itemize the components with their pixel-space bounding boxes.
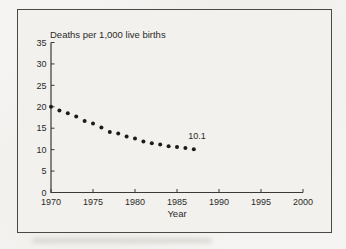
data-point: [57, 109, 61, 113]
y-tick-label: 30: [36, 59, 46, 69]
y-axis-ticks: 05101520253035: [36, 38, 54, 198]
x-tick-label: 1975: [83, 197, 103, 207]
x-axis-ticks: 1970197519801985199019952000: [41, 189, 313, 207]
data-point: [83, 119, 87, 123]
x-axis-label: Year: [167, 208, 186, 219]
y-tick-label: 25: [36, 81, 46, 91]
y-tick-label: 35: [36, 38, 46, 48]
data-point: [49, 105, 53, 109]
data-point: [150, 141, 154, 145]
x-tick-label: 1985: [167, 197, 187, 207]
data-point: [175, 145, 179, 149]
data-point: [116, 131, 120, 135]
data-point: [91, 122, 95, 126]
x-tick-label: 1990: [209, 197, 229, 207]
data-point: [141, 140, 145, 144]
scan-smudge-artifact: [32, 238, 212, 243]
data-point: [183, 146, 187, 150]
data-series: [49, 105, 196, 151]
data-point: [125, 134, 129, 138]
chart-title: Deaths per 1,000 live births: [50, 29, 166, 40]
y-tick-label: 10: [36, 145, 46, 155]
data-point: [99, 125, 103, 129]
y-tick-label: 5: [41, 166, 46, 176]
data-point: [108, 130, 112, 134]
x-tick-label: 1995: [251, 197, 271, 207]
data-point: [74, 115, 78, 119]
data-point: [66, 111, 70, 115]
last-point-annotation: 10.1: [188, 131, 206, 141]
data-point: [158, 143, 162, 147]
x-tick-label: 1980: [125, 197, 145, 207]
axes: [51, 43, 303, 193]
chart-canvas: Deaths per 1,000 live births 05101520253…: [0, 0, 346, 249]
y-tick-label: 15: [36, 123, 46, 133]
y-tick-label: 20: [36, 102, 46, 112]
data-point: [192, 147, 196, 151]
data-point: [167, 144, 171, 148]
axis-lines: [51, 43, 303, 193]
x-tick-label: 1970: [41, 197, 61, 207]
x-tick-label: 2000: [293, 197, 313, 207]
data-point: [133, 137, 137, 141]
